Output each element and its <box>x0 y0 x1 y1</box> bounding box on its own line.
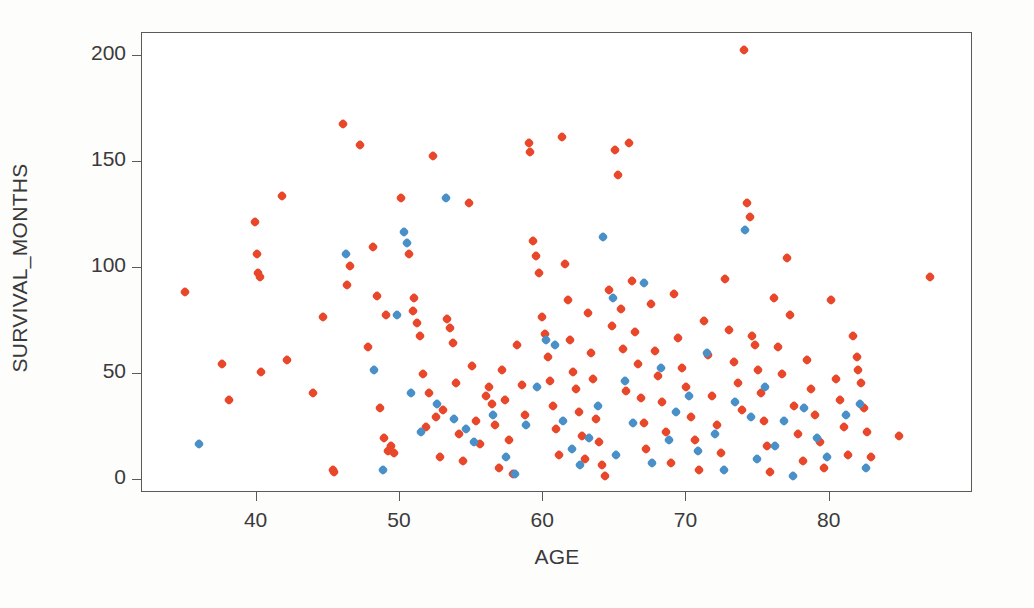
data-point <box>798 403 809 414</box>
data-point <box>698 316 709 327</box>
y-axis-tick <box>132 267 141 268</box>
data-point <box>391 309 402 320</box>
data-point <box>598 231 609 242</box>
data-point <box>512 339 523 350</box>
x-axis-label: AGE <box>534 545 579 569</box>
data-point <box>368 364 379 375</box>
data-point <box>626 275 637 286</box>
data-point <box>826 294 837 305</box>
x-axis-tick <box>829 492 830 501</box>
data-point <box>340 248 351 259</box>
data-point <box>556 131 567 142</box>
data-point <box>277 191 288 202</box>
data-point <box>371 290 382 301</box>
data-point <box>582 307 593 318</box>
data-point <box>635 392 646 403</box>
data-point <box>615 303 626 314</box>
data-point <box>406 388 417 399</box>
data-point <box>377 464 388 475</box>
data-point <box>738 44 749 55</box>
data-point <box>423 388 434 399</box>
data-point <box>764 466 775 477</box>
data-point <box>645 299 656 310</box>
data-point <box>778 415 789 426</box>
data-point <box>593 436 604 447</box>
data-point <box>568 367 579 378</box>
data-point <box>793 428 804 439</box>
data-point <box>611 449 622 460</box>
data-point <box>532 381 543 392</box>
data-point <box>500 451 511 462</box>
data-point <box>588 373 599 384</box>
data-point <box>608 292 619 303</box>
data-point <box>619 375 630 386</box>
data-point <box>740 224 751 235</box>
data-point <box>728 356 739 367</box>
data-point <box>618 343 629 354</box>
data-point <box>665 458 676 469</box>
data-point <box>843 449 854 460</box>
x-axis-tick-label: 70 <box>655 508 715 532</box>
data-point <box>744 212 755 223</box>
x-axis-tick <box>399 492 400 501</box>
data-point <box>307 388 318 399</box>
data-point <box>641 443 652 454</box>
y-axis-tick-label: 50 <box>70 359 126 383</box>
y-axis-tick-label: 100 <box>70 253 126 277</box>
data-point <box>694 464 705 475</box>
data-point <box>516 379 527 390</box>
data-point <box>562 294 573 305</box>
data-point <box>810 409 821 420</box>
data-point <box>692 445 703 456</box>
data-point <box>719 273 730 284</box>
data-point <box>566 443 577 454</box>
x-axis-tick <box>685 492 686 501</box>
data-point <box>732 377 743 388</box>
data-point <box>503 434 514 445</box>
data-point <box>623 138 634 149</box>
data-point <box>251 248 262 259</box>
data-point <box>821 451 832 462</box>
data-point <box>676 362 687 373</box>
data-point <box>628 417 639 428</box>
scatter-plot-figure: SURVIVAL_MONTHS 050100150200 4050607080 … <box>0 0 1034 608</box>
data-point <box>751 453 762 464</box>
data-point <box>573 407 584 418</box>
data-point <box>444 322 455 333</box>
data-point <box>250 216 261 227</box>
data-point <box>715 447 726 458</box>
data-point <box>470 415 481 426</box>
data-point <box>668 288 679 299</box>
data-point <box>553 449 564 460</box>
data-point <box>860 462 871 473</box>
data-point <box>805 383 816 394</box>
data-points-layer <box>142 33 971 491</box>
data-point <box>685 411 696 422</box>
data-point <box>367 241 378 252</box>
x-axis-tick-label: 50 <box>369 508 429 532</box>
data-point <box>542 352 553 363</box>
data-point <box>592 400 603 411</box>
data-point <box>656 396 667 407</box>
x-axis-tick-label: 40 <box>226 508 286 532</box>
data-point <box>489 420 500 431</box>
data-point <box>768 292 779 303</box>
data-point <box>407 305 418 316</box>
data-point <box>629 326 640 337</box>
data-point <box>530 250 541 261</box>
data-point <box>559 258 570 269</box>
data-point <box>499 394 510 405</box>
data-point <box>337 119 348 130</box>
data-point <box>519 409 530 420</box>
y-axis-tick <box>132 55 141 56</box>
data-point <box>664 434 675 445</box>
data-point <box>570 383 581 394</box>
data-point <box>838 422 849 433</box>
data-point <box>527 235 538 246</box>
y-axis-tick-label: 0 <box>70 465 126 489</box>
y-axis-tick-label: 150 <box>70 147 126 171</box>
data-point <box>374 403 385 414</box>
data-point <box>797 456 808 467</box>
data-point <box>781 252 792 263</box>
data-point <box>486 398 497 409</box>
